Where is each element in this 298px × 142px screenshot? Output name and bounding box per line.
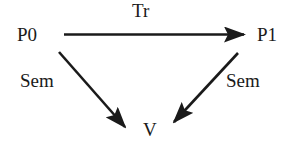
arrow-sem-left	[59, 52, 125, 127]
node-v: V	[143, 120, 157, 139]
edge-label-sem-right: Sem	[226, 71, 260, 90]
node-p1: P1	[257, 25, 277, 44]
node-p0: P0	[17, 25, 37, 44]
edge-label-sem-left: Sem	[20, 71, 54, 90]
commutative-diagram: P0 P1 V Tr Sem Sem	[0, 0, 298, 142]
edge-label-tr: Tr	[132, 1, 149, 20]
